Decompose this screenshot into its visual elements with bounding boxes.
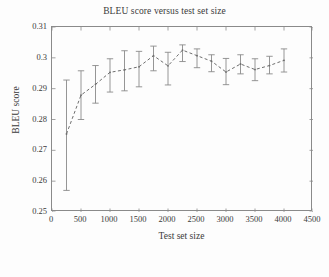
- chart-figure: BLEU score versus test set size 0.250.26…: [0, 0, 329, 277]
- y-tick-label: 0.28: [32, 114, 47, 124]
- x-tick-label: 0: [49, 214, 53, 224]
- x-tick-label: 500: [74, 214, 87, 224]
- y-axis-tick-labels: 0.250.260.270.280.290.30.31: [0, 26, 47, 211]
- y-tick-label: 0.26: [32, 175, 47, 185]
- y-tick-label: 0.3: [36, 52, 47, 62]
- x-tick-label: 1000: [101, 214, 118, 224]
- data-point-markers: [66, 49, 285, 135]
- x-tick-label: 3000: [217, 214, 234, 224]
- y-axis-label: BLEU score: [11, 70, 21, 150]
- x-tick-label: 4500: [304, 214, 321, 224]
- data-line: [67, 50, 285, 134]
- x-tick-label: 1500: [130, 214, 147, 224]
- plot-area: [51, 26, 312, 211]
- x-tick-label: 3500: [246, 214, 263, 224]
- x-tick-label: 2500: [188, 214, 205, 224]
- plot-svg: [52, 27, 313, 212]
- y-tick-label: 0.25: [32, 206, 47, 216]
- y-tick-label: 0.27: [32, 144, 47, 154]
- y-tick-label: 0.29: [32, 83, 47, 93]
- chart-title: BLEU score versus test set size: [0, 6, 329, 16]
- error-bars: [63, 45, 287, 191]
- x-axis-label: Test set size: [51, 231, 312, 241]
- x-tick-label: 2000: [159, 214, 176, 224]
- x-tick-label: 4000: [275, 214, 292, 224]
- x-axis-tick-labels: 050010001500200025003000350040004500: [51, 214, 312, 228]
- y-tick-label: 0.31: [32, 21, 47, 31]
